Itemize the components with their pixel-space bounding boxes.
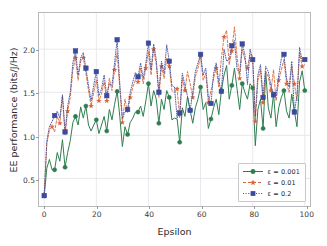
data-point-marker: [115, 37, 120, 42]
data-point-marker: [115, 89, 119, 93]
data-point-marker: [73, 114, 77, 118]
legend-item-eps-02[interactable]: ε = 0.2: [242, 189, 300, 198]
data-point-marker: [146, 82, 150, 86]
data-point-marker: [167, 59, 172, 64]
data-point-marker: [84, 66, 89, 71]
x-tick-mark: [254, 206, 255, 209]
data-point-marker: [209, 101, 214, 106]
y-tick-label: 2.0: [23, 45, 35, 54]
data-point-marker: [198, 52, 203, 57]
data-point-marker: [230, 43, 235, 48]
y-tick-mark: [36, 93, 39, 94]
y-tick-mark: [36, 50, 39, 51]
legend-swatch-blue: [242, 189, 264, 198]
data-point-marker: [303, 88, 307, 92]
data-point-marker: [221, 34, 226, 39]
data-point-marker: [292, 110, 297, 115]
data-point-marker: [261, 95, 266, 100]
data-point-marker: [209, 117, 213, 121]
x-tick-mark: [202, 206, 203, 209]
x-tick-mark: [149, 206, 150, 209]
data-point-marker: [157, 121, 161, 125]
data-point-marker: [112, 67, 117, 72]
y-tick-label: 0.5: [23, 176, 35, 185]
data-point-marker: [52, 113, 57, 118]
y-tick-mark: [36, 137, 39, 138]
data-point-marker: [57, 120, 62, 125]
chart-figure: 0.51.01.52.0 020406080100 EE performance…: [0, 0, 327, 246]
chart-legend[interactable]: ε = 0.001 ε = 0.01 ε = 0.2: [238, 163, 306, 202]
data-point-marker: [271, 93, 276, 98]
x-tick-label: 20: [92, 210, 102, 219]
data-point-marker: [157, 90, 162, 95]
data-point-marker: [261, 126, 265, 130]
x-tick-mark: [307, 206, 308, 209]
legend-label-eps-001: ε = 0.01: [267, 179, 295, 187]
x-tick-mark: [44, 206, 45, 209]
data-point-marker: [94, 69, 99, 74]
data-point-marker: [240, 42, 245, 47]
data-point-marker: [188, 108, 193, 113]
legend-label-eps-0001: ε = 0.001: [267, 168, 300, 176]
data-point-marker: [136, 110, 140, 114]
data-point-marker: [237, 76, 242, 81]
data-point-marker: [96, 98, 101, 103]
legend-label-eps-02: ε = 0.2: [267, 190, 291, 198]
data-point-marker: [135, 79, 140, 84]
x-tick-label: 80: [249, 210, 259, 219]
data-point-marker: [63, 130, 68, 135]
y-tick-label: 1.0: [23, 132, 35, 141]
data-point-marker: [230, 83, 234, 87]
x-tick-label: 40: [144, 210, 154, 219]
y-tick-label: 1.5: [23, 89, 35, 98]
data-point-marker: [125, 107, 130, 112]
data-point-marker: [88, 103, 93, 108]
data-point-marker: [104, 93, 109, 98]
x-axis-label: Epsilon: [157, 226, 191, 237]
data-point-marker: [104, 98, 109, 103]
data-point-marker: [178, 140, 182, 144]
data-point-marker: [73, 49, 78, 54]
legend-item-eps-0001[interactable]: ε = 0.001: [242, 167, 300, 176]
data-point-marker: [299, 64, 304, 69]
data-point-marker: [167, 95, 171, 99]
data-point-marker: [84, 104, 88, 108]
data-point-marker: [146, 41, 151, 46]
data-point-marker: [240, 82, 244, 86]
legend-item-eps-001[interactable]: ε = 0.01: [242, 178, 300, 187]
x-tick-label: 0: [42, 210, 47, 219]
x-tick-mark: [97, 206, 98, 209]
data-point-marker: [177, 111, 182, 116]
data-point-marker: [198, 85, 202, 89]
data-point-marker: [282, 52, 287, 57]
y-tick-mark: [36, 180, 39, 181]
plot-area: 0.51.01.52.0 020406080100 EE performance…: [38, 12, 311, 207]
data-point-marker: [94, 118, 98, 122]
data-point-marker: [42, 193, 47, 198]
data-point-marker: [219, 89, 224, 94]
data-point-marker: [250, 57, 255, 62]
data-point-marker: [126, 132, 130, 136]
data-point-marker: [303, 57, 308, 62]
data-point-marker: [63, 165, 67, 169]
data-point-marker: [105, 129, 109, 133]
data-point-marker: [282, 88, 286, 92]
legend-swatch-green: [242, 167, 264, 176]
x-tick-label: 60: [197, 210, 207, 219]
y-axis-label: EE performance (bits/J/Hz): [8, 47, 19, 172]
data-point-marker: [53, 168, 57, 172]
data-point-marker: [190, 95, 195, 100]
x-tick-label: 100: [300, 210, 314, 219]
data-point-marker: [136, 74, 141, 79]
legend-swatch-orange: [242, 178, 264, 187]
